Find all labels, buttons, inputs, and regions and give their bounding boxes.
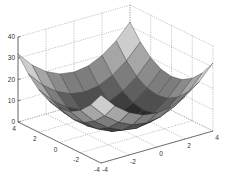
x-tick-label: -2	[130, 158, 136, 165]
paraboloid-surface	[18, 22, 213, 131]
y-tick-label: 2	[33, 135, 37, 142]
y-tick-label: 4	[12, 125, 16, 132]
x-tick-label: 4	[215, 134, 219, 141]
z-tick	[18, 36, 21, 37]
x-axis	[101, 131, 213, 163]
x-tick-label: -4	[102, 166, 108, 173]
y-tick-label: 0	[54, 146, 58, 153]
z-tick-label: 30	[8, 54, 16, 61]
z-tick-label: 10	[8, 97, 16, 104]
y-axis	[18, 122, 101, 163]
x-tick-label: 2	[187, 142, 191, 149]
wall-grid-line	[18, 5, 130, 37]
x-tick-label: 0	[159, 150, 163, 157]
y-tick-label: -4	[94, 166, 100, 173]
z-tick-label: 0	[11, 118, 15, 125]
y-tick-label: -2	[73, 156, 79, 163]
surface-plot: 010203040420-2-4-4-2024	[0, 0, 225, 183]
z-tick-label: 20	[8, 76, 16, 83]
z-tick-label: 40	[8, 33, 16, 40]
